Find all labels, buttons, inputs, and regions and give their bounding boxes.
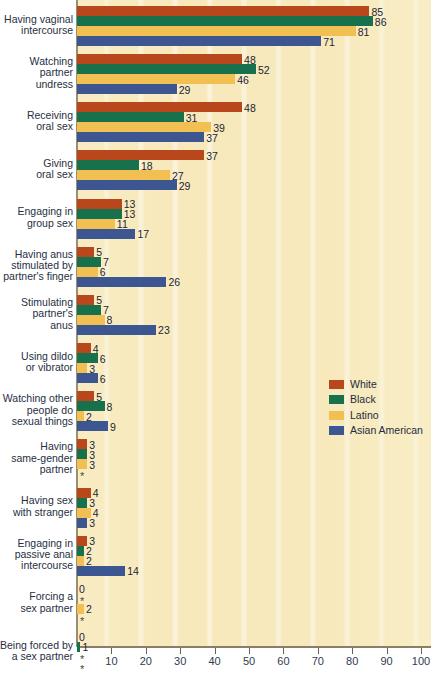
x-tick-70: [318, 648, 319, 654]
category-label: Givingoral sex: [0, 158, 73, 181]
legend-swatch: [329, 411, 344, 420]
bar-white: [77, 102, 242, 112]
bar-latino: [77, 411, 84, 421]
bar-latino: [77, 363, 87, 373]
x-tick-10: [111, 648, 112, 654]
x-tick-label-50: 50: [243, 655, 255, 667]
bar-value-label: 9: [110, 422, 116, 432]
bar-value-label: 8: [107, 315, 113, 325]
category-label-line: a sex partner: [0, 651, 73, 662]
bar-white: [77, 6, 369, 16]
bar-suppressed-marker: *: [80, 616, 84, 626]
bar-value-label: 3: [89, 460, 95, 470]
bar-value-label: 6: [100, 267, 106, 277]
bar-value-label: 2: [86, 556, 92, 566]
bar-value-label: 8: [107, 402, 113, 412]
bar-value-label: 17: [137, 229, 149, 239]
bar-latino: [77, 122, 211, 132]
category-label-line: intercourse: [0, 25, 73, 36]
bar-suppressed-marker: *: [80, 664, 84, 674]
category-label: Having sexwith stranger: [0, 495, 73, 518]
bar-value-label: 37: [206, 133, 218, 143]
bar-white: [77, 247, 94, 257]
bar-black: [77, 449, 87, 459]
bar-suppressed-marker: *: [80, 471, 84, 481]
x-tick-label-90: 90: [380, 655, 392, 667]
bar-value-label: 31: [186, 113, 198, 123]
category-label-line: Having sex: [0, 495, 73, 506]
category-label-line: Watching other: [0, 393, 73, 404]
bar-value-label: 29: [179, 85, 191, 95]
x-tick-label-100: 100: [412, 655, 430, 667]
legend-label: Black: [350, 393, 376, 405]
x-tick-30: [180, 648, 181, 654]
bar-latino: [77, 315, 105, 325]
category-label: Watching otherpeople dosexual things: [0, 393, 73, 427]
bar-latino: [77, 219, 115, 229]
bar-white: [77, 150, 204, 160]
legend-swatch: [329, 426, 344, 435]
category-label-line: group sex: [0, 218, 73, 229]
bar-value-label: 14: [127, 566, 139, 576]
bar-asian-american: [77, 229, 135, 239]
bar-value-label: 2: [86, 412, 92, 422]
bar-black: [77, 498, 87, 508]
category-label-line: oral sex: [0, 169, 73, 180]
category-label: Watchingpartnerundress: [0, 56, 73, 90]
category-label-line: oral sex: [0, 121, 73, 132]
bar-value-label: 4: [93, 344, 99, 354]
category-label-line: undress: [0, 79, 73, 90]
bar-asian-american: [77, 566, 125, 576]
bar-black: [77, 546, 84, 556]
category-label-line: sex partner: [0, 603, 73, 614]
bar-asian-american: [77, 518, 87, 528]
bar-white: [77, 536, 87, 546]
bar-white: [77, 54, 242, 64]
category-label: Having vaginalintercourse: [0, 14, 73, 37]
bar-white: [77, 295, 94, 305]
x-tick-label-20: 20: [140, 655, 152, 667]
x-tick-100: [421, 648, 422, 654]
bar-white: [77, 488, 91, 498]
bar-white: [77, 343, 91, 353]
bar-black: [77, 16, 373, 26]
category-label: Receivingoral sex: [0, 110, 73, 133]
bar-chart: 102030405060708090100 Having vaginalinte…: [0, 0, 431, 694]
bar-asian-american: [77, 277, 166, 287]
bar-asian-american: [77, 132, 204, 142]
category-label: Stimulatingpartner'sanus: [0, 297, 73, 331]
category-label-line: anus: [0, 320, 73, 331]
bar-value-label: 1: [82, 642, 88, 652]
bar-black: [77, 305, 101, 315]
x-tick-label-30: 30: [174, 655, 186, 667]
bar-value-label: 5: [96, 247, 102, 257]
bar-latino: [77, 459, 87, 469]
bar-asian-american: [77, 84, 177, 94]
bar-asian-american: [77, 36, 321, 46]
bar-value-label: 26: [168, 277, 180, 287]
legend-label: Latino: [350, 409, 379, 421]
category-label-line: intercourse: [0, 560, 73, 571]
bar-value-label: 3: [89, 364, 95, 374]
category-label: Engaging ingroup sex: [0, 206, 73, 229]
bar-black: [77, 642, 80, 652]
bar-black: [77, 353, 98, 363]
bar-value-label: 37: [206, 151, 218, 161]
legend-swatch: [329, 380, 344, 389]
category-label-line: or vibrator: [0, 362, 73, 373]
bar-value-label: 52: [258, 65, 270, 75]
bar-value-label: 46: [237, 75, 249, 85]
category-label: Using dildoor vibrator: [0, 351, 73, 374]
x-tick-80: [352, 648, 353, 654]
category-label-line: Engaging in: [0, 206, 73, 217]
bar-value-label: 85: [371, 7, 383, 17]
bar-value-label: 71: [323, 37, 335, 47]
x-tick-label-70: 70: [312, 655, 324, 667]
category-label-line: partner's: [0, 308, 73, 319]
x-axis-line: [77, 646, 431, 648]
legend-swatch: [329, 395, 344, 404]
bar-black: [77, 401, 105, 411]
bar-value-label: 18: [141, 161, 153, 171]
bar-value-label: 3: [89, 518, 95, 528]
x-tick-label-80: 80: [346, 655, 358, 667]
